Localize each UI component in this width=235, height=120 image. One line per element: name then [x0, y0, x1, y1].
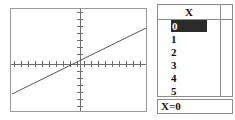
table-cell-value: 1: [171, 33, 177, 45]
table-cell-value: 5: [171, 85, 177, 97]
graph-plot-area[interactable]: [11, 9, 146, 111]
table-column-divider: [220, 5, 221, 96]
table-cell-value: 4: [171, 72, 177, 84]
graph-panel[interactable]: [10, 8, 147, 112]
status-value-text: X=0: [161, 100, 181, 113]
table-row[interactable]: 4: [158, 72, 220, 85]
table-body[interactable]: 0 1 2 3 4 5: [158, 20, 220, 98]
table-cell-value: 3: [171, 59, 177, 71]
table-cell-value: 0: [171, 20, 207, 32]
table-row[interactable]: 0: [158, 20, 220, 33]
table-row[interactable]: 5: [158, 85, 220, 98]
table-row[interactable]: 1: [158, 33, 220, 46]
status-bar: X=0: [157, 99, 233, 114]
table-column-header-x: X: [158, 5, 220, 19]
table-row[interactable]: 2: [158, 46, 220, 59]
value-table-panel[interactable]: X 0 1 2 3 4 5: [157, 4, 233, 97]
table-cell-value: 2: [171, 46, 177, 58]
table-row[interactable]: 3: [158, 59, 220, 72]
